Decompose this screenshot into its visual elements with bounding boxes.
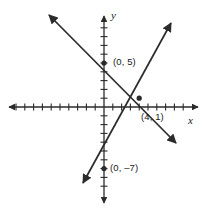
y-axis-label: y (111, 9, 116, 21)
point-marker-0-minus7 (101, 166, 106, 171)
coordinate-graph-figure: (0, 5) (4, 1) (0, –7) x y (0, 0, 206, 211)
point-marker-0-5 (101, 60, 106, 65)
point-label-0-minus7: (0, –7) (110, 162, 138, 173)
descending-line (49, 15, 176, 143)
y-axis (101, 16, 108, 203)
point-label-0-5: (0, 5) (113, 56, 136, 67)
ascending-line (83, 23, 171, 183)
x-axis-label: x (188, 114, 193, 126)
coordinate-plane-svg (0, 0, 206, 211)
point-label-4-1: (4, 1) (141, 111, 164, 122)
point-marker-4-1 (137, 96, 142, 101)
